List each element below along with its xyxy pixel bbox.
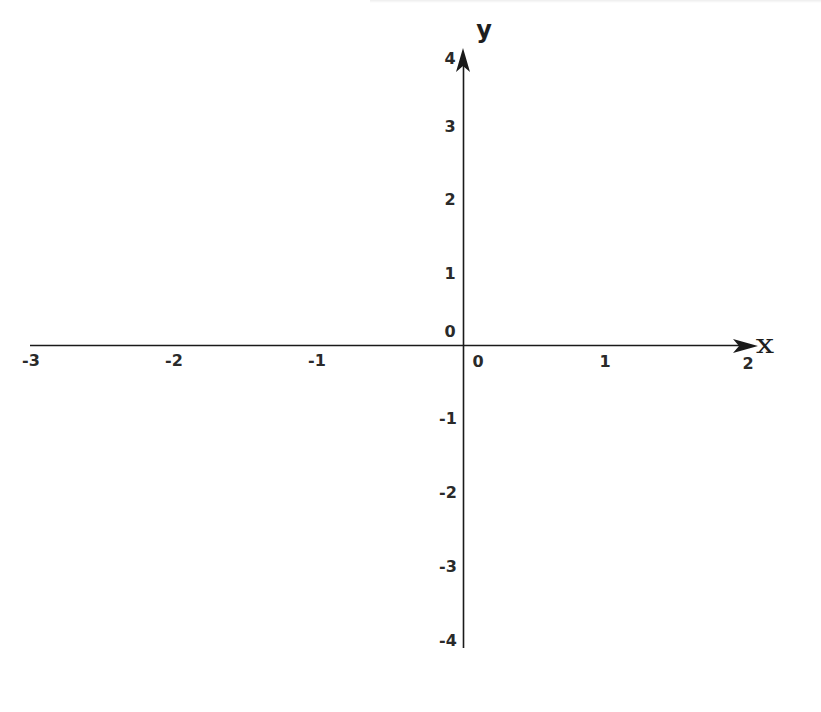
x-tick-label: 1 — [599, 354, 610, 370]
y-tick-label: 3 — [444, 119, 455, 135]
y-tick-label: 1 — [444, 266, 455, 282]
x-tick-label: -1 — [308, 353, 326, 369]
y-tick-label: 4 — [444, 51, 455, 67]
x-axis-name: x — [756, 331, 774, 357]
y-tick-label: -2 — [439, 485, 457, 501]
x-tick-label: -3 — [22, 353, 40, 369]
axes-canvas — [0, 0, 821, 712]
x-tick-label: -2 — [165, 353, 183, 369]
y-tick-label: -3 — [439, 559, 457, 575]
y-tick-label: 0 — [444, 324, 455, 340]
x-tick-label: 2 — [742, 356, 753, 372]
y-tick-label: -4 — [439, 633, 457, 649]
y-tick-label: 2 — [444, 192, 455, 208]
y-tick-label: -1 — [439, 411, 457, 427]
x-tick-label: 0 — [472, 354, 483, 370]
y-axis-name: y — [476, 18, 492, 42]
